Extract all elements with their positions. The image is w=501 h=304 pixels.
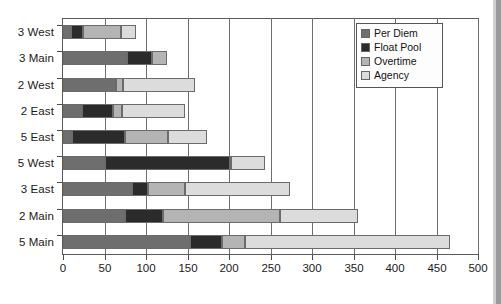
x-tick-label: 0: [60, 262, 66, 274]
y-axis-category-labels: 3 West3 Main2 West2 East5 East5 West3 Ea…: [0, 0, 58, 304]
bar-segment: [122, 104, 185, 118]
bar-segment: [132, 182, 148, 196]
y-tick-label: 2 East: [21, 105, 54, 117]
legend-swatch: [361, 43, 370, 52]
x-tick-label: 150: [178, 262, 197, 274]
y-tick-label: 5 East: [21, 131, 54, 143]
bar-segment: [245, 235, 450, 249]
x-tick-label: 450: [427, 262, 446, 274]
legend-label: Agency: [374, 70, 409, 81]
bar-segment: [63, 130, 72, 144]
legend-item: Per Diem: [361, 27, 438, 40]
y-tick-mark: [57, 78, 62, 79]
y-tick-mark: [57, 156, 62, 157]
x-tick-label: 50: [99, 262, 112, 274]
legend-item: Agency: [361, 69, 438, 82]
x-tick-label: 100: [136, 262, 155, 274]
x-tick-label: 400: [385, 262, 404, 274]
bar-segment: [127, 51, 152, 65]
y-tick-mark: [57, 104, 62, 105]
bar-segment: [116, 78, 123, 92]
bar-segment: [190, 235, 222, 249]
bar-segment: [63, 182, 132, 196]
chart-legend: Per DiemFloat PoolOvertimeAgency: [356, 23, 443, 88]
bar-segment: [63, 156, 105, 170]
legend-label: Overtime: [374, 56, 417, 67]
bar-segment: [82, 104, 113, 118]
bar-segment: [83, 25, 121, 39]
bar-segment: [63, 25, 71, 39]
y-tick-mark: [57, 182, 62, 183]
bar-segment: [71, 25, 83, 39]
x-tick-mark: [146, 255, 147, 260]
y-tick-mark: [57, 25, 62, 26]
y-tick-mark: [57, 51, 62, 52]
y-tick-label: 2 Main: [19, 210, 54, 222]
y-tick-mark: [57, 130, 62, 131]
x-tick-mark: [229, 255, 230, 260]
bar-segment: [152, 51, 167, 65]
legend-label: Per Diem: [374, 28, 418, 39]
y-tick-label: 5 West: [18, 157, 54, 169]
y-tick-label: 5 Main: [19, 236, 54, 248]
x-tick-label: 250: [261, 262, 280, 274]
x-tick-mark: [437, 255, 438, 260]
y-tick-label: 3 West: [18, 26, 54, 38]
bar-segment: [63, 51, 127, 65]
x-tick-mark: [271, 255, 272, 260]
legend-swatch: [361, 71, 370, 80]
stacked-bar-chart: 3 West3 Main2 West2 East5 East5 West3 Ea…: [0, 0, 501, 304]
bar-segment: [168, 130, 208, 144]
legend-label: Float Pool: [374, 42, 421, 53]
x-tick-mark: [478, 255, 479, 260]
gridline: [478, 18, 479, 254]
bar-segment: [105, 156, 230, 170]
bar-segment: [231, 156, 264, 170]
x-tick-mark: [105, 255, 106, 260]
bar-segment: [148, 182, 185, 196]
legend-item: Overtime: [361, 55, 438, 68]
bar-segment: [185, 182, 290, 196]
bar-segment: [123, 78, 195, 92]
x-tick-mark: [188, 255, 189, 260]
x-tick-mark: [354, 255, 355, 260]
bar-segment: [125, 209, 162, 223]
bar-segment: [125, 130, 167, 144]
x-tick-label: 500: [468, 262, 487, 274]
bar-segment: [163, 209, 280, 223]
x-tick-label: 300: [302, 262, 321, 274]
bar-segment: [121, 25, 136, 39]
bar-segment: [280, 209, 358, 223]
y-tick-mark: [57, 209, 62, 210]
y-tick-label: 2 West: [18, 79, 54, 91]
bar-segment: [63, 235, 190, 249]
page-edge-band: [496, 0, 501, 304]
bar-segment: [63, 78, 116, 92]
x-tick-mark: [395, 255, 396, 260]
bar-segment: [63, 104, 82, 118]
y-tick-label: 3 Main: [19, 52, 54, 64]
legend-swatch: [361, 57, 370, 66]
legend-swatch: [361, 29, 370, 38]
x-tick-mark: [63, 255, 64, 260]
bar-segment: [63, 209, 125, 223]
x-tick-label: 350: [344, 262, 363, 274]
bar-segment: [72, 130, 125, 144]
x-tick-mark: [312, 255, 313, 260]
bar-segment: [222, 235, 245, 249]
legend-item: Float Pool: [361, 41, 438, 54]
y-tick-mark: [57, 235, 62, 236]
x-tick-label: 200: [219, 262, 238, 274]
y-tick-label: 3 East: [21, 183, 54, 195]
bar-segment: [113, 104, 122, 118]
